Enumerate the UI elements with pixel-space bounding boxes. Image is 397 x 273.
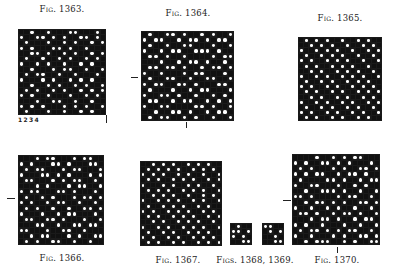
weave-cell — [67, 239, 71, 244]
weave-cell — [304, 48, 308, 52]
weave-cell — [69, 78, 72, 81]
weave-cell — [152, 210, 155, 213]
weave-cell — [298, 161, 302, 166]
weave-cell — [326, 217, 329, 220]
weave-cell — [217, 60, 222, 65]
weave-cell — [58, 57, 61, 60]
weave-cell — [19, 110, 23, 114]
fig1370-caption: Fig. 1370. — [315, 255, 360, 265]
weave-cell — [377, 69, 381, 73]
weave-cell — [57, 190, 60, 193]
weave-cell — [343, 189, 346, 192]
weave-cell — [41, 196, 44, 199]
weave-cell — [366, 74, 370, 78]
weave-cell — [83, 201, 87, 206]
weave-cell — [228, 38, 233, 43]
weave-cell — [57, 88, 61, 92]
weave-cell — [156, 162, 160, 166]
weave-cell — [166, 215, 170, 219]
weave-cell — [212, 116, 216, 119]
weave-cell — [304, 183, 308, 188]
weave-cell — [369, 234, 373, 239]
weave-cell — [19, 67, 23, 71]
weave-cell — [77, 173, 81, 178]
weave-cell — [154, 60, 159, 65]
weave-cell — [189, 44, 193, 47]
weave-cell — [154, 32, 159, 37]
weave-cell — [356, 85, 360, 89]
weave-cell — [166, 173, 170, 177]
weave-cell — [19, 73, 23, 77]
weave-cell — [51, 212, 55, 217]
weave-cell — [351, 90, 355, 94]
weave-cell — [36, 73, 39, 76]
weave-cell — [353, 240, 356, 243]
weave-cell — [79, 41, 83, 45]
weave-cell — [89, 240, 92, 243]
weave-cell — [151, 225, 155, 229]
weave-cell — [336, 49, 339, 52]
weave-cell — [189, 77, 193, 80]
weave-cell — [299, 38, 303, 42]
weave-cell — [320, 54, 323, 57]
weave-cell — [351, 85, 354, 88]
weave-cell — [41, 41, 45, 45]
weave-cell — [315, 54, 319, 58]
weave-cell — [68, 62, 72, 66]
weave-cell — [154, 83, 158, 86]
weave-cell — [192, 168, 195, 171]
weave-cell — [341, 101, 344, 104]
fig1365-weave-grid — [298, 37, 382, 121]
weave-cell — [200, 77, 205, 82]
weave-cell — [159, 110, 164, 115]
weave-cell — [369, 183, 373, 188]
weave-cell — [79, 99, 83, 103]
weave-cell — [74, 52, 77, 55]
weave-cell — [332, 156, 335, 159]
weave-cell — [142, 210, 145, 213]
weave-cell — [40, 217, 44, 222]
weave-cell — [148, 71, 153, 76]
weave-cell — [356, 48, 360, 52]
weave-cell — [183, 99, 187, 102]
weave-cell — [315, 49, 318, 52]
weave-cell — [19, 83, 23, 87]
weave-cell — [188, 115, 193, 120]
weave-cell — [212, 184, 215, 187]
weave-cell — [207, 199, 211, 203]
weave-cell — [346, 100, 350, 104]
weave-cell — [142, 88, 147, 93]
weave-cell — [377, 101, 380, 104]
weave-cell — [372, 106, 375, 109]
weave-cell — [321, 189, 324, 192]
weave-cell — [361, 54, 365, 58]
weave-cell — [154, 66, 158, 69]
weave-cell — [217, 194, 221, 198]
weave-cell — [351, 105, 355, 109]
weave-cell — [171, 49, 175, 52]
weave-cell — [176, 241, 180, 245]
weave-cell — [346, 74, 350, 78]
weave-cell — [353, 166, 357, 171]
weave-cell — [152, 194, 155, 197]
weave-cell — [207, 205, 210, 208]
weave-cell — [335, 105, 339, 109]
weave-cell — [35, 104, 39, 108]
weave-cell — [182, 88, 187, 93]
weave-cell — [212, 105, 216, 108]
weave-cell — [159, 99, 164, 104]
weave-cell — [88, 212, 92, 217]
weave-cell — [57, 173, 60, 176]
weave-cell — [200, 66, 204, 69]
weave-cell — [166, 204, 170, 208]
weave-cell — [77, 156, 81, 161]
weave-cell — [182, 162, 186, 166]
weave-cell — [57, 30, 61, 34]
weave-cell — [299, 167, 302, 170]
fig1364-caption: Fig. 1364. — [166, 8, 211, 18]
weave-cell — [148, 110, 153, 115]
weave-cell — [331, 116, 334, 119]
weave-cell — [19, 156, 23, 161]
weave-cell — [351, 59, 355, 63]
weave-cell — [309, 54, 313, 58]
